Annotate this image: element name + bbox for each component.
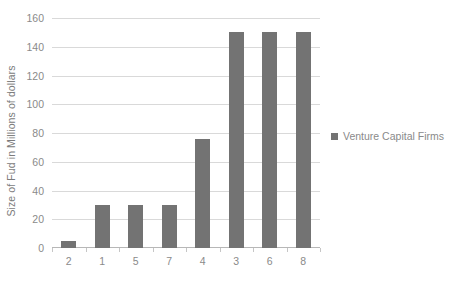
y-axis-title: Size of Fud in Millions of dollars [0,0,22,282]
x-axis-tick-label: 5 [133,255,139,267]
y-axis-tick-label: 80 [32,127,44,139]
x-axis-tick-mark [320,248,321,252]
bar [296,32,311,248]
x-axis-tick-labels: 21574368 [52,255,320,275]
y-axis-tick-label: 40 [32,185,44,197]
y-axis-tick-label: 60 [32,156,44,168]
x-axis-tick-mark [86,248,87,252]
y-axis-title-label: Size of Fud in Millions of dollars [5,65,17,216]
bar-series-venture-capital-firms [52,18,320,248]
x-axis-tick-label: 3 [233,255,239,267]
chart-legend: Venture Capital Firms [331,130,444,142]
x-axis-tick-label: 4 [200,255,206,267]
x-axis-tick-mark [153,248,154,252]
x-axis-tick-mark [186,248,187,252]
y-axis-tick-label: 160 [26,12,44,24]
x-axis-tick-mark [52,248,53,252]
bar [128,205,143,248]
y-axis-tick-labels: 020406080100120140160 [20,0,48,282]
x-axis-tick-mark [253,248,254,252]
y-axis-tick-label: 100 [26,98,44,110]
legend-square-marker-icon [331,133,338,140]
y-axis-tick-label: 120 [26,70,44,82]
y-axis-tick-label: 20 [32,213,44,225]
y-axis-tick-label: 140 [26,41,44,53]
x-axis-tick-label: 6 [267,255,273,267]
bar [95,205,110,248]
bar [162,205,177,248]
x-axis-tick-label: 7 [166,255,172,267]
x-axis-tick-mark [220,248,221,252]
bar-chart: Size of Fud in Millions of dollars 02040… [0,0,450,282]
bar [262,32,277,248]
x-axis-tick-label: 8 [300,255,306,267]
x-axis-tick-mark [287,248,288,252]
x-axis-tick-label: 1 [99,255,105,267]
x-axis-tick-label: 2 [66,255,72,267]
y-axis-tick-label: 0 [38,242,44,254]
bar [195,139,210,248]
x-axis-tick-marks [52,248,320,253]
bar [61,241,76,248]
legend-entry-label: Venture Capital Firms [343,130,444,142]
x-axis-tick-mark [119,248,120,252]
bar [229,32,244,248]
